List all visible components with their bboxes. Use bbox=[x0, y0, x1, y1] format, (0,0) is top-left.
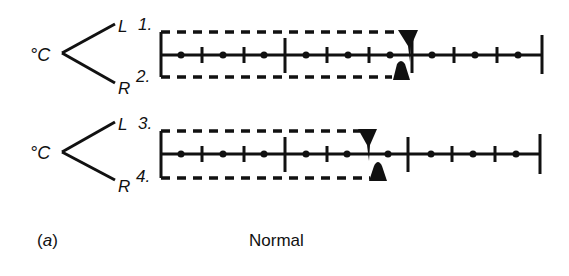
branch-left-line bbox=[62, 24, 115, 53]
branch-right-line bbox=[62, 53, 115, 83]
label-L-row2: L bbox=[118, 115, 127, 134]
label-R-row2: R bbox=[118, 177, 130, 196]
unit-label-row1: °C bbox=[30, 45, 51, 65]
row-2: °C L 3. R 4. bbox=[30, 114, 540, 196]
hearing-balance-diagram: °C L 1. R 2. bbox=[0, 0, 569, 276]
number-2: 2. bbox=[135, 67, 150, 86]
unit-label-row2: °C bbox=[30, 143, 51, 163]
left-marker-down-triangle bbox=[398, 30, 418, 62]
number-3: 3. bbox=[138, 114, 152, 133]
label-R-row1: R bbox=[118, 79, 130, 98]
left-marker-down-triangle bbox=[358, 129, 377, 161]
figure-letter: a bbox=[43, 231, 52, 250]
number-4: 4. bbox=[136, 167, 150, 186]
row-1: °C L 1. R 2. bbox=[30, 15, 542, 98]
branch-right-line bbox=[62, 152, 115, 180]
right-marker-up-triangle bbox=[369, 162, 387, 181]
number-1: 1. bbox=[138, 15, 152, 34]
branch-left-line bbox=[62, 122, 115, 152]
label-L-row1: L bbox=[118, 17, 127, 36]
figure-label: (a) bbox=[37, 231, 58, 250]
figure-title: Normal bbox=[249, 231, 304, 250]
right-marker-up-triangle bbox=[393, 61, 410, 80]
